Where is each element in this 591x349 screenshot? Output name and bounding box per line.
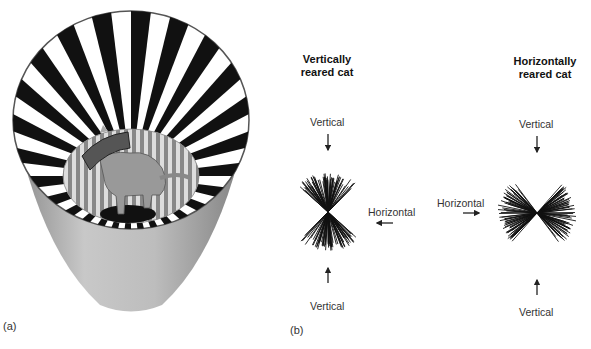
vertical-bias-orientation-plot [300,173,356,250]
horizontal-bias-orientation-plot [498,184,576,241]
orientation-plots [0,0,591,349]
